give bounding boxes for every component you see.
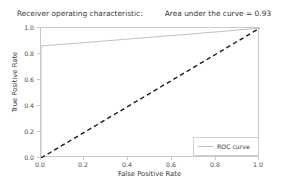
auc-annotation: Area under the curve = 0.93: [165, 9, 271, 18]
y-tick-label-06: 0.6: [20, 76, 34, 83]
x-tick-label-0: 0.0: [32, 161, 48, 168]
y-tick-label-04: 0.4: [20, 102, 34, 109]
x-tick-label-04: 0.4: [119, 161, 135, 168]
y-axis-label: True Positive Rate: [11, 37, 19, 127]
x-tick-label-08: 0.8: [207, 161, 223, 168]
chart-legend: ROC curve: [193, 137, 259, 156]
x-tick-label-06: 0.6: [163, 161, 179, 168]
page-title: Receiver operating characteristic:: [17, 9, 143, 18]
y-tick-label-08: 0.8: [20, 50, 34, 57]
x-tick-label-02: 0.2: [75, 161, 91, 168]
legend-swatch-roc-curve: [198, 146, 213, 147]
chart-title-row: Receiver operating characteristic: Area …: [0, 7, 288, 19]
y-tick-label-0: 0.0: [20, 154, 34, 161]
x-tick-label-1: 1.0: [250, 161, 266, 168]
y-tick-label-02: 0.2: [20, 128, 34, 135]
roc-chart-figure: Receiver operating characteristic: Area …: [0, 0, 288, 191]
legend-label-roc-curve: ROC curve: [217, 143, 250, 150]
x-axis-label: False Positive Rate: [40, 170, 259, 178]
y-tick-label-1: 1.0: [20, 24, 34, 31]
